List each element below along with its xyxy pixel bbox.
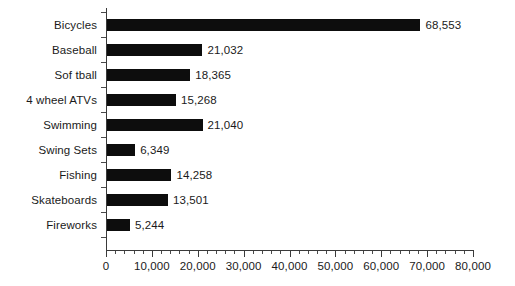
x-axis-tick-label: 80,000 [433,260,513,273]
x-axis-minor-tick [372,251,373,254]
bar-value-label: 6,349 [140,144,169,156]
category-label: Baseball [0,44,97,56]
category-label: 4 wheel ATVs [0,94,97,106]
x-axis-minor-tick [409,251,410,254]
x-axis-major-tick [381,251,382,257]
bar-value-label: 21,040 [208,119,244,131]
x-axis-minor-tick [299,251,300,254]
x-axis-major-tick [106,251,107,257]
category-label: Skateboards [0,194,97,206]
y-axis-tick [101,12,106,13]
bar-value-label: 68,553 [425,19,461,31]
bar-value-label: 14,258 [176,169,212,181]
x-axis-minor-tick [262,251,263,254]
bar [107,219,130,231]
x-axis-minor-tick [253,251,254,254]
x-axis-minor-tick [445,251,446,254]
x-axis-minor-tick [308,251,309,254]
x-axis-minor-tick [280,251,281,254]
x-axis-minor-tick [179,251,180,254]
x-axis-major-tick [290,251,291,257]
y-axis-tick [101,112,106,113]
y-axis-tick [101,237,106,238]
y-axis-tick [101,87,106,88]
y-axis-tick [101,137,106,138]
x-axis-minor-tick [161,251,162,254]
x-axis-minor-tick [143,251,144,254]
x-axis-major-tick [198,251,199,257]
x-axis-minor-tick [464,251,465,254]
x-axis-minor-tick [234,251,235,254]
x-axis-minor-tick [216,251,217,254]
category-label: Swing Sets [0,144,97,156]
x-axis-major-tick [152,251,153,257]
x-axis-minor-tick [124,251,125,254]
x-axis-major-tick [427,251,428,257]
y-axis-tick [101,162,106,163]
x-axis-minor-tick [363,251,364,254]
plot-area: Bicycles68,553Baseball21,032Sof tball18,… [0,0,515,286]
y-axis-tick [101,212,106,213]
x-axis-minor-tick [455,251,456,254]
x-axis-minor-tick [317,251,318,254]
x-axis-minor-tick [345,251,346,254]
x-axis-major-tick [244,251,245,257]
bar [107,144,135,156]
bar-value-label: 5,244 [135,219,164,231]
x-axis-minor-tick [170,251,171,254]
bar-value-label: 13,501 [173,194,209,206]
bar [107,94,176,106]
x-axis-minor-tick [189,251,190,254]
category-label: Swimming [0,119,97,131]
category-label: Fireworks [0,219,97,231]
bar [107,44,202,56]
bar-value-label: 15,268 [181,94,217,106]
category-label: Bicycles [0,19,97,31]
x-axis-major-tick [473,251,474,257]
bar-value-label: 18,365 [195,69,231,81]
x-axis-minor-tick [207,251,208,254]
x-axis-minor-tick [225,251,226,254]
category-label: Fishing [0,169,97,181]
bar [107,69,190,81]
x-axis-minor-tick [115,251,116,254]
x-axis-minor-tick [271,251,272,254]
x-axis-minor-tick [418,251,419,254]
y-axis-tick [101,187,106,188]
x-axis-minor-tick [436,251,437,254]
x-axis-minor-tick [400,251,401,254]
x-axis-minor-tick [390,251,391,254]
x-axis-minor-tick [134,251,135,254]
x-axis-minor-tick [354,251,355,254]
bar-chart: Bicycles68,553Baseball21,032Sof tball18,… [0,0,515,286]
category-label: Sof tball [0,69,97,81]
y-axis-tick [101,37,106,38]
x-axis-minor-tick [326,251,327,254]
bar [107,169,171,181]
bar [107,119,203,131]
bar [107,194,168,206]
x-axis-major-tick [335,251,336,257]
bar [107,19,420,31]
y-axis-tick [101,62,106,63]
bar-value-label: 21,032 [207,44,243,56]
